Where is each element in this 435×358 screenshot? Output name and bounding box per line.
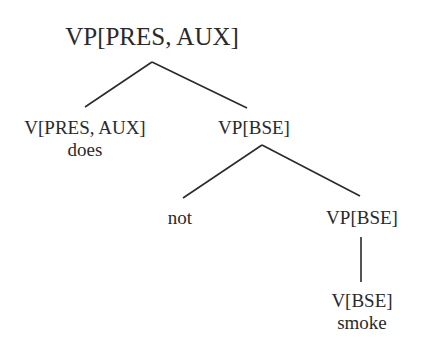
- vp-bse-2-label: VP[BSE]: [326, 208, 398, 227]
- edge-vp-bse-to-vp-bse: [262, 145, 360, 196]
- vp-bse-node-1: VP[BSE]: [218, 118, 290, 137]
- edge-vp-bse-to-not: [183, 145, 262, 198]
- root-node: VP[PRES, AUX]: [65, 24, 239, 49]
- main-verb-word: smoke: [331, 313, 392, 332]
- aux-verb-word: does: [24, 140, 145, 159]
- vp-bse-1-label: VP[BSE]: [218, 118, 290, 137]
- vp-bse-node-2: VP[BSE]: [326, 208, 398, 227]
- edge-root-to-aux-verb: [85, 62, 152, 107]
- syntax-tree: VP[PRES, AUX] V[PRES, AUX] does VP[BSE] …: [0, 0, 435, 358]
- root-node-label: VP[PRES, AUX]: [65, 24, 239, 49]
- negation-word: not: [168, 208, 192, 227]
- aux-verb-label: V[PRES, AUX]: [24, 118, 145, 137]
- negation-node: not: [168, 208, 192, 227]
- edge-root-to-vp-bse: [152, 62, 247, 108]
- main-verb-node: V[BSE] smoke: [331, 291, 392, 332]
- aux-verb-node: V[PRES, AUX] does: [24, 118, 145, 159]
- main-verb-label: V[BSE]: [331, 291, 392, 310]
